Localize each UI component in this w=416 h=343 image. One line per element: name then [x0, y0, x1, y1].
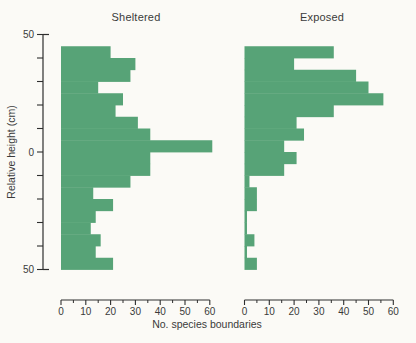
- bar: [245, 70, 357, 82]
- bar: [61, 223, 91, 235]
- bar: [245, 82, 369, 94]
- x-tick-label: 20: [289, 306, 301, 317]
- bar: [61, 129, 150, 141]
- y-tick-label: 50: [23, 29, 35, 40]
- bar: [245, 140, 285, 152]
- bar: [61, 164, 150, 176]
- bar: [245, 117, 297, 129]
- bar: [61, 258, 113, 270]
- figure: Sheltered Exposed Relative height (cm) N…: [0, 0, 416, 343]
- bar: [245, 129, 305, 141]
- x-tick-label: 40: [155, 306, 167, 317]
- bar: [61, 152, 150, 164]
- bar: [61, 187, 93, 199]
- x-tick-label: 30: [313, 306, 325, 317]
- bar: [245, 199, 257, 211]
- bar: [61, 58, 135, 70]
- bar: [61, 199, 113, 211]
- x-tick-label: 60: [204, 306, 216, 317]
- x-tick-label: 50: [179, 306, 191, 317]
- bar: [245, 58, 295, 70]
- x-tick-label: 0: [58, 306, 64, 317]
- x-tick-label: 20: [105, 306, 117, 317]
- bar: [61, 70, 130, 82]
- bar: [245, 176, 250, 188]
- bar: [245, 152, 297, 164]
- bar: [245, 93, 384, 105]
- y-tick-label: 50: [23, 264, 35, 275]
- bar: [245, 187, 257, 199]
- bar: [245, 46, 334, 58]
- bar: [61, 82, 98, 94]
- bar: [61, 211, 96, 223]
- bar: [61, 234, 101, 246]
- bar: [61, 46, 111, 58]
- bar: [61, 140, 212, 152]
- plot-area: 5005001020304050600102030405060: [0, 0, 416, 343]
- x-tick-label: 50: [363, 306, 375, 317]
- bar: [61, 176, 130, 188]
- bar: [61, 93, 123, 105]
- bar: [245, 211, 247, 223]
- y-tick-label: 0: [28, 147, 34, 158]
- bar: [61, 105, 116, 117]
- bar: [61, 246, 96, 258]
- x-tick-label: 40: [338, 306, 350, 317]
- x-tick-label: 30: [130, 306, 142, 317]
- x-tick-label: 10: [264, 306, 276, 317]
- bar: [245, 223, 247, 235]
- bar: [245, 246, 247, 258]
- x-tick-label: 10: [80, 306, 92, 317]
- x-tick-label: 60: [388, 306, 400, 317]
- bar: [245, 164, 285, 176]
- bar: [245, 234, 255, 246]
- x-tick-label: 0: [242, 306, 248, 317]
- bar: [61, 117, 138, 129]
- bar: [245, 258, 257, 270]
- bar: [245, 105, 334, 117]
